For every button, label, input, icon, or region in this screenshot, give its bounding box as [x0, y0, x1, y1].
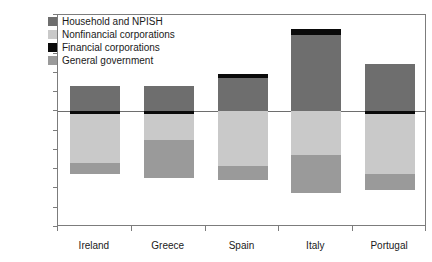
legend-item[interactable]: Nonfinancial corporations — [48, 28, 175, 40]
bar-segment-household — [218, 78, 268, 112]
bar-segment-financial — [218, 74, 268, 77]
legend-swatch-financial-icon — [48, 43, 57, 52]
legend-swatch-nonfinancial-icon — [48, 30, 57, 39]
bar-segment-government — [291, 155, 341, 194]
x-axis-label-portugal: Portugal — [352, 240, 426, 251]
bar-segment-government — [144, 140, 194, 177]
bar-segment-government — [365, 174, 415, 191]
bar-group — [365, 15, 415, 225]
x-axis: IrelandGreeceSpainItalyPortugal — [57, 226, 426, 262]
bar-segment-financial — [291, 29, 341, 36]
legend-swatch-government-icon — [48, 56, 57, 65]
bar-segment-government — [218, 166, 268, 179]
x-axis-label-greece: Greece — [131, 240, 205, 251]
bar-segment-nonfinancial — [70, 114, 120, 163]
bar-segment-nonfinancial — [291, 111, 341, 154]
legend-swatch-household-icon — [48, 17, 57, 26]
bar-segment-nonfinancial — [218, 111, 268, 166]
bar-group — [291, 15, 341, 225]
legend-item[interactable]: Financial corporations — [48, 41, 175, 53]
x-axis-tick-mark — [278, 226, 279, 231]
x-axis-label-spain: Spain — [205, 240, 279, 251]
chart-legend: Household and NPISHNonfinancial corporat… — [48, 15, 175, 66]
x-axis-tick-mark — [425, 226, 426, 231]
bar-segment-nonfinancial — [144, 114, 194, 140]
x-axis-tick-mark — [131, 226, 132, 231]
x-axis-tick-mark — [57, 226, 58, 231]
bar-segment-nonfinancial — [365, 114, 415, 174]
bar-segment-household — [144, 86, 194, 111]
x-axis-tick-mark — [352, 226, 353, 231]
bar-segment-government — [70, 163, 120, 174]
x-axis-label-ireland: Ireland — [57, 240, 131, 251]
legend-item[interactable]: Household and NPISH — [48, 15, 175, 27]
x-axis-tick-mark — [205, 226, 206, 231]
legend-item-label: Household and NPISH — [62, 16, 163, 27]
bar-segment-household — [365, 64, 415, 111]
chart-container: 250200150100500−50−100−150−200−250−300 I… — [0, 0, 432, 262]
legend-item[interactable]: General government — [48, 54, 175, 66]
legend-item-label: Nonfinancial corporations — [62, 29, 175, 40]
x-axis-label-italy: Italy — [278, 240, 352, 251]
legend-item-label: General government — [62, 55, 153, 66]
bar-segment-household — [70, 86, 120, 111]
bar-segment-household — [291, 35, 341, 111]
bar-group — [218, 15, 268, 225]
legend-item-label: Financial corporations — [62, 42, 160, 53]
